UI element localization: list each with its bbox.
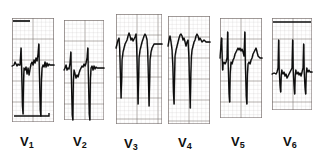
lead-label-base: V: [124, 136, 133, 151]
lead-label-base: V: [178, 135, 187, 150]
lead-label-v5: V5: [231, 134, 245, 150]
lead-label-v3: V3: [124, 136, 138, 152]
lead-label-base: V: [231, 134, 240, 149]
lead-label-v4: V4: [178, 135, 192, 151]
ecg-figure: V1 V2 V3 V4 V5 V6: [0, 0, 317, 159]
lead-label-base: V: [283, 134, 292, 149]
lead-label-subscript: 1: [29, 140, 34, 150]
lead-label-subscript: 2: [82, 140, 87, 150]
lead-label-base: V: [73, 134, 82, 149]
figure-background: [0, 0, 317, 159]
lead-label-v1: V1: [20, 134, 34, 150]
lead-label-base: V: [20, 134, 29, 149]
lead-label-v6: V6: [283, 134, 297, 150]
lead-label-subscript: 6: [292, 140, 297, 150]
lead-label-subscript: 3: [133, 142, 138, 152]
lead-label-subscript: 5: [240, 140, 245, 150]
lead-label-v2: V2: [73, 134, 87, 150]
lead-label-subscript: 4: [187, 141, 192, 151]
ecg-canvas: [0, 0, 317, 159]
